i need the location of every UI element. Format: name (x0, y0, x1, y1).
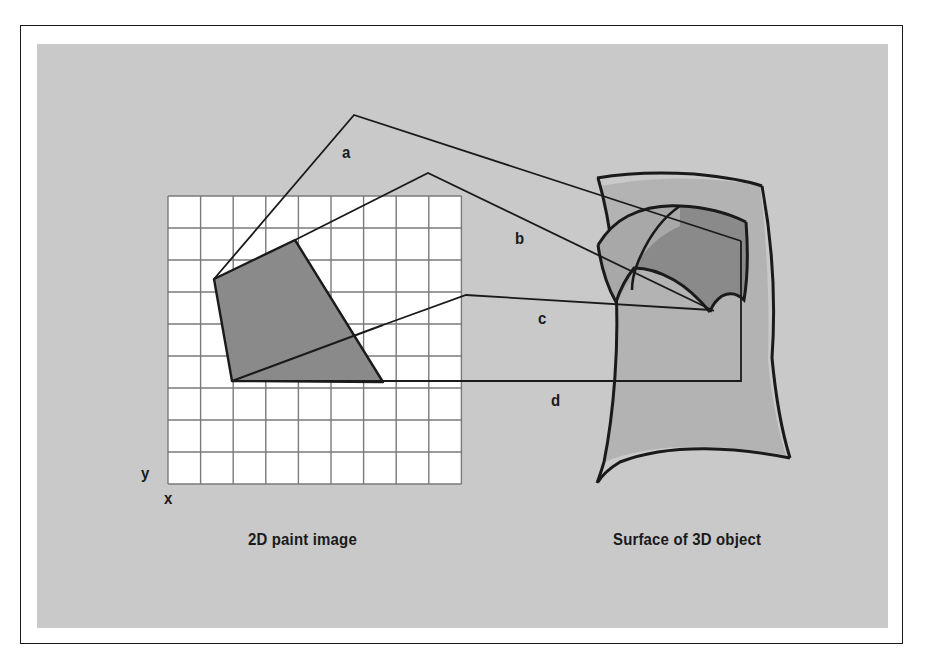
figure-page: a b c d y x 2D paint image Surface of 3D… (0, 0, 925, 661)
connector-label-a: a (342, 143, 350, 163)
axis-label-x: x (164, 489, 172, 509)
caption-2d-paint-image: 2D paint image (248, 530, 357, 550)
connector-label-b: b (515, 229, 524, 249)
caption-surface-3d-object: Surface of 3D object (613, 530, 761, 550)
connector-label-d: d (551, 391, 560, 411)
axis-label-y: y (141, 464, 149, 484)
connector-label-c: c (538, 309, 546, 329)
